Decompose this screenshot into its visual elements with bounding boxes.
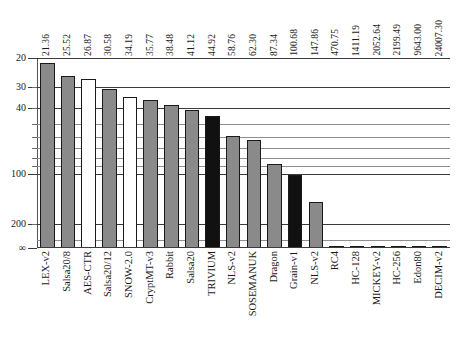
y-tick-label: 30 bbox=[16, 82, 26, 92]
bar[interactable] bbox=[185, 110, 200, 248]
bar-value-label: 9643.00 bbox=[414, 24, 424, 56]
bar-value-label: 1411.19 bbox=[352, 25, 362, 56]
x-axis-label: HC-256 bbox=[392, 251, 403, 285]
bar[interactable] bbox=[164, 105, 179, 248]
plot-area bbox=[37, 58, 450, 248]
bar-value-label: 21.36 bbox=[42, 34, 52, 56]
bar-value-label: 25.52 bbox=[63, 34, 73, 56]
bar-value-label: 62.30 bbox=[249, 34, 259, 56]
value-label-row: 21.3625.5226.8730.5834.1935.7738.4841.12… bbox=[0, 0, 459, 58]
x-axis-label: NLS-v2 bbox=[227, 251, 238, 285]
y-tick-label: 100 bbox=[11, 169, 26, 179]
x-axis-label: RC4 bbox=[330, 251, 341, 270]
y-tick-mark bbox=[28, 58, 37, 59]
x-axis-label: LEX-v2 bbox=[41, 251, 52, 285]
x-axis-label: AES-CTR bbox=[83, 251, 94, 295]
y-tick-mark bbox=[28, 174, 37, 175]
bar-value-label: 26.87 bbox=[84, 34, 94, 56]
x-axis-label: MICKEY-v2 bbox=[372, 251, 383, 305]
bar-value-label: 34.19 bbox=[125, 34, 135, 56]
bar-value-label: 24007.30 bbox=[435, 20, 445, 56]
bar[interactable] bbox=[309, 202, 324, 248]
bar-value-label: 38.48 bbox=[166, 34, 176, 56]
x-axis-label: HC-128 bbox=[351, 251, 362, 285]
y-axis: 203040100200∞ bbox=[0, 58, 37, 248]
bar[interactable] bbox=[205, 116, 220, 248]
bar[interactable] bbox=[123, 97, 138, 248]
bar-value-label: 470.75 bbox=[331, 29, 341, 56]
bar-value-label: 147.86 bbox=[311, 29, 321, 56]
y-tick-mark bbox=[28, 248, 37, 249]
x-axis-label: Salsa20/8 bbox=[62, 251, 73, 292]
y-tick-label: 200 bbox=[11, 219, 26, 229]
bar-value-label: 30.58 bbox=[104, 34, 114, 56]
bar[interactable] bbox=[247, 140, 262, 248]
bar[interactable] bbox=[226, 136, 241, 248]
bar-series bbox=[37, 58, 450, 248]
x-axis-label: SNOW-2.0 bbox=[124, 251, 135, 298]
bar[interactable] bbox=[143, 100, 158, 248]
x-axis-label: Grain-v1 bbox=[289, 251, 300, 289]
x-axis-label: Salsa20 bbox=[186, 251, 197, 284]
x-axis-label: Salsa20/12 bbox=[103, 251, 114, 297]
x-axis-label: DECIM-v2 bbox=[434, 251, 445, 299]
bar-value-label: 87.34 bbox=[270, 34, 280, 56]
bar-value-label: 41.12 bbox=[187, 34, 197, 56]
bar[interactable] bbox=[102, 89, 117, 248]
bar-value-label: 2052.64 bbox=[373, 24, 383, 56]
bar[interactable] bbox=[40, 63, 55, 248]
bar-value-label: 100.68 bbox=[290, 29, 300, 56]
y-tick-label: 20 bbox=[16, 53, 26, 63]
bar[interactable] bbox=[61, 76, 76, 248]
x-axis-category-labels: LEX-v2Salsa20/8AES-CTRSalsa20/12SNOW-2.0… bbox=[0, 250, 459, 341]
bar[interactable] bbox=[267, 164, 282, 248]
bar-value-label: 2199.49 bbox=[393, 24, 403, 56]
bar-chart: 21.3625.5226.8730.5834.1935.7738.4841.12… bbox=[0, 0, 459, 341]
x-axis-label: CryptMT-v3 bbox=[145, 251, 156, 304]
bar[interactable] bbox=[288, 175, 303, 249]
bar-value-label: 35.77 bbox=[146, 34, 156, 56]
y-tick-label: 40 bbox=[16, 103, 26, 113]
x-axis-label: Rabbit bbox=[165, 251, 176, 279]
axis-bottom-line bbox=[37, 247, 450, 248]
x-axis-label: SOSEMANUK bbox=[248, 251, 259, 316]
bar-value-label: 58.76 bbox=[228, 34, 238, 56]
x-axis-label: Dragon bbox=[269, 251, 280, 283]
x-axis-label: NLS-v2 bbox=[310, 251, 321, 285]
x-axis-label: Edon80 bbox=[413, 251, 424, 284]
bar-value-label: 44.92 bbox=[208, 34, 218, 56]
x-axis-label: TRIVIUM bbox=[207, 251, 218, 296]
bar[interactable] bbox=[81, 79, 96, 248]
